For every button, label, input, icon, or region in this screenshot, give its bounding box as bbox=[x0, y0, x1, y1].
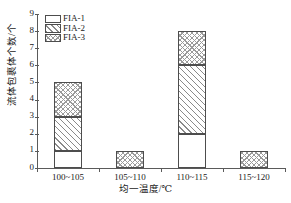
bar-segment-fia-3 bbox=[54, 82, 82, 116]
y-axis-tick-label: 4 bbox=[30, 94, 35, 103]
y-axis-tick-mark bbox=[35, 65, 39, 66]
y-axis-tick-label: 8 bbox=[30, 26, 35, 35]
y-axis-tick-label: 0 bbox=[30, 163, 35, 172]
legend-label: FIA-3 bbox=[63, 33, 85, 42]
y-axis-tick-mark bbox=[35, 100, 39, 101]
y-axis-line bbox=[37, 14, 38, 169]
bar-stack bbox=[240, 151, 268, 168]
y-axis-title: 流体包裹体个数/个 bbox=[8, 5, 18, 125]
y-axis-tick-mark bbox=[35, 31, 39, 32]
x-axis-tick-label: 110~115 bbox=[176, 173, 207, 182]
x-axis-tick-mark bbox=[161, 168, 162, 172]
y-axis-tick-mark bbox=[35, 14, 39, 15]
bar-segment-fia-1 bbox=[178, 134, 206, 168]
y-axis-tick-label: 6 bbox=[30, 60, 35, 69]
y-axis-tick-label: 9 bbox=[30, 9, 35, 18]
x-axis-tick-label: 115~120 bbox=[238, 173, 270, 182]
bar-segment-fia-2 bbox=[178, 65, 206, 133]
y-axis-tick-label: 2 bbox=[30, 128, 35, 137]
y-axis-tick-mark bbox=[35, 151, 39, 152]
bar-segment-fia-3 bbox=[116, 151, 144, 168]
y-axis-tick-mark bbox=[35, 82, 39, 83]
y-axis-tick-label: 7 bbox=[30, 43, 35, 52]
bar-stack bbox=[178, 31, 206, 168]
y-axis-tick-label: 3 bbox=[30, 111, 35, 120]
legend-swatch-fia-1 bbox=[45, 15, 61, 24]
x-axis-tick-label: 105~110 bbox=[114, 173, 146, 182]
chart-legend: FIA-1FIA-2FIA-3 bbox=[45, 14, 85, 43]
y-axis-tick-mark bbox=[35, 134, 39, 135]
bar-stack bbox=[116, 151, 144, 168]
x-axis-title: 均一温度/℃ bbox=[0, 185, 291, 195]
x-axis-tick-mark bbox=[285, 168, 286, 172]
bar-segment-fia-3 bbox=[240, 151, 268, 168]
y-axis-tick-label: 5 bbox=[30, 77, 35, 86]
x-axis-tick-mark bbox=[99, 168, 100, 172]
y-axis-tick-mark bbox=[35, 48, 39, 49]
stacked-bar-chart: 流体包裹体个数/个 0123456789 100~105105~110110~1… bbox=[0, 0, 291, 203]
y-axis-tick-label: 1 bbox=[30, 145, 35, 154]
legend-swatch-fia-2 bbox=[45, 24, 61, 33]
bar-stack bbox=[54, 82, 82, 168]
bar-segment-fia-2 bbox=[54, 117, 82, 151]
bar-segment-fia-1 bbox=[54, 151, 82, 168]
legend-label: FIA-1 bbox=[63, 14, 85, 23]
x-axis-tick-mark bbox=[37, 168, 38, 172]
x-axis-tick-mark bbox=[223, 168, 224, 172]
legend-swatch-fia-3 bbox=[45, 34, 61, 43]
x-axis-tick-label: 100~105 bbox=[52, 173, 84, 182]
legend-item-fia-3: FIA-3 bbox=[45, 33, 85, 43]
bar-segment-fia-3 bbox=[178, 31, 206, 65]
y-axis-tick-mark bbox=[35, 117, 39, 118]
